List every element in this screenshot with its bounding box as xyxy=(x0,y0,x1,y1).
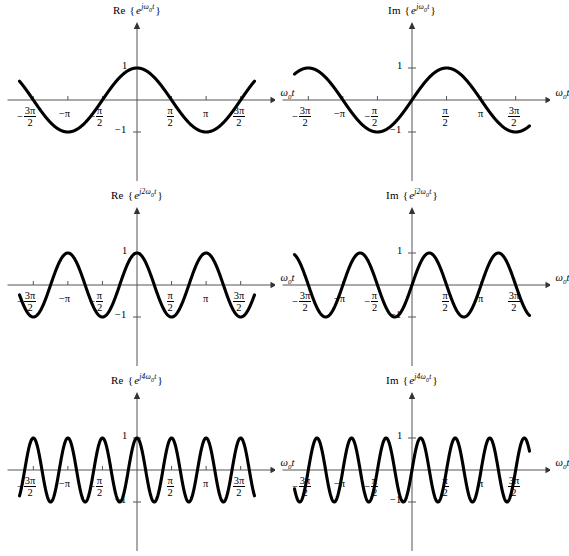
plot-re-1: Re {ejω0t}−3π2−π−π2π2π3π21−1ω0t xyxy=(0,0,275,185)
plot-canvas xyxy=(275,370,550,555)
xtick-label-3pi-over-2: 3π2 xyxy=(508,475,521,498)
xtick-label-neg-3pi-over-2: −3π2 xyxy=(17,105,36,128)
xtick-label-neg-pi-over-2: −π2 xyxy=(89,290,103,313)
xtick-label-neg-3pi-over-2: −3π2 xyxy=(292,290,311,313)
x-axis-arrow xyxy=(545,467,550,473)
xtick-label-3pi-over-2: 3π2 xyxy=(508,290,521,313)
y-axis-arrow xyxy=(409,22,415,29)
xtick-label-neg-pi: −π xyxy=(334,293,345,304)
plot-re-2: Re {ej2ω0t}−3π2−π−π2π2π3π21−1ω0t xyxy=(0,185,275,370)
plot-im-4: Im {ej4ω0t}−3π2−π−π2π2π3π21−1ω0t xyxy=(275,370,550,555)
xtick-label-pi-over-2: π2 xyxy=(442,290,449,313)
plot-canvas xyxy=(0,0,275,185)
xtick-label-neg-pi-over-2: −π2 xyxy=(89,105,103,128)
xtick-label-3pi-over-2: 3π2 xyxy=(233,290,246,313)
plot-canvas xyxy=(275,185,550,370)
xtick-label-pi-over-2: π2 xyxy=(167,290,174,313)
xtick-label-neg-pi: −π xyxy=(59,108,70,119)
xtick-label-neg-3pi-over-2: −3π2 xyxy=(292,475,311,498)
xtick-label-neg-3pi-over-2: −3π2 xyxy=(17,475,36,498)
plot-im-2: Im {ej2ω0t}−3π2−π−π2π2π3π21−1ω0t xyxy=(275,185,550,370)
ytick-label-one: 1 xyxy=(122,430,127,441)
xtick-label-neg-pi-over-2: −π2 xyxy=(364,105,378,128)
xtick-label-pi-over-2: π2 xyxy=(442,475,449,498)
ytick-label-one: 1 xyxy=(397,60,402,71)
xtick-label-neg-pi: −π xyxy=(334,108,345,119)
ytick-label-one: 1 xyxy=(397,430,402,441)
y-axis-arrow xyxy=(409,392,415,399)
plot-im-1: Im {ejω0t}−3π2−π−π2π2π3π21−1ω0t xyxy=(275,0,550,185)
xtick-label-neg-pi: −π xyxy=(59,293,70,304)
xtick-label-pi-over-2: π2 xyxy=(167,475,174,498)
xtick-label-pi: π xyxy=(203,293,208,304)
ytick-label-one: 1 xyxy=(397,245,402,256)
xtick-label-pi: π xyxy=(478,293,483,304)
plot-canvas xyxy=(275,0,550,185)
xtick-label-3pi-over-2: 3π2 xyxy=(233,105,246,128)
x-axis-label: ω0t xyxy=(555,272,569,286)
xtick-label-pi-over-2: π2 xyxy=(167,105,174,128)
ytick-label-neg-one: −1 xyxy=(115,124,126,135)
ytick-label-neg-one: −1 xyxy=(390,309,401,320)
plot-re-4: Re {ej4ω0t}−3π2−π−π2π2π3π21−1ω0t xyxy=(0,370,275,555)
y-axis-arrow xyxy=(134,22,140,29)
xtick-label-3pi-over-2: 3π2 xyxy=(508,105,521,128)
xtick-label-neg-pi-over-2: −π2 xyxy=(364,475,378,498)
xtick-label-3pi-over-2: 3π2 xyxy=(233,475,246,498)
y-axis-arrow xyxy=(134,392,140,399)
y-axis-arrow xyxy=(134,207,140,214)
xtick-label-pi: π xyxy=(203,478,208,489)
ytick-label-neg-one: −1 xyxy=(390,494,401,505)
xtick-label-neg-pi: −π xyxy=(59,478,70,489)
xtick-label-pi: π xyxy=(478,108,483,119)
xtick-label-pi-over-2: π2 xyxy=(442,105,449,128)
xtick-label-neg-pi-over-2: −π2 xyxy=(89,475,103,498)
plot-canvas xyxy=(0,185,275,370)
y-axis-arrow xyxy=(409,207,415,214)
xtick-label-neg-pi: −π xyxy=(334,478,345,489)
xtick-label-neg-3pi-over-2: −3π2 xyxy=(292,105,311,128)
plot-canvas xyxy=(0,370,275,555)
ytick-label-one: 1 xyxy=(122,245,127,256)
x-axis-arrow xyxy=(545,282,550,288)
xtick-label-pi: π xyxy=(478,478,483,489)
ytick-label-neg-one: −1 xyxy=(115,309,126,320)
x-axis-label: ω0t xyxy=(555,457,569,471)
x-axis-arrow xyxy=(545,97,550,103)
ytick-label-one: 1 xyxy=(122,60,127,71)
xtick-label-neg-pi-over-2: −π2 xyxy=(364,290,378,313)
ytick-label-neg-one: −1 xyxy=(390,124,401,135)
xtick-label-pi: π xyxy=(203,108,208,119)
x-axis-label: ω0t xyxy=(555,87,569,101)
xtick-label-neg-3pi-over-2: −3π2 xyxy=(17,290,36,313)
ytick-label-neg-one: −1 xyxy=(115,494,126,505)
